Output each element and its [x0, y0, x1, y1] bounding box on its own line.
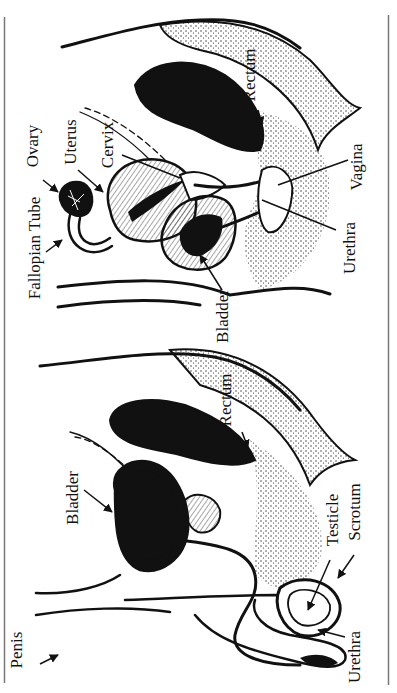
arrow-ovary: [43, 180, 58, 192]
label-ovary: Ovary: [23, 124, 42, 167]
label-fallopian-tube: Fallopian Tube: [25, 197, 44, 300]
female-front-contour: [58, 281, 330, 295]
female-ovary: [60, 182, 93, 216]
male-front-contour: [36, 575, 120, 593]
female-fallopian-tube: [79, 218, 110, 244]
label-male-rectum: Rectum: [216, 374, 235, 427]
label-scrotum: Scrotum: [345, 483, 364, 541]
label-testicle: Testicle: [323, 494, 342, 547]
arrow-fallopian-tube: [46, 240, 62, 252]
female-front-contour-2: [58, 301, 200, 307]
arrow-male-bladder: [84, 490, 112, 512]
male-prostate: [184, 495, 220, 533]
arrow-scrotum: [338, 555, 354, 578]
label-uterus-text: Uterus: [61, 119, 80, 164]
label-penis-text: Penis: [7, 632, 26, 669]
label-vagina-text: Vagina: [347, 143, 366, 191]
label-female-urethra: Urethra: [340, 222, 359, 274]
label-female-urethra-text: Urethra: [340, 222, 359, 274]
male-front-contour-2: [36, 608, 170, 615]
label-ovary-text: Ovary: [23, 124, 42, 167]
label-fallopian-tube-text: Fallopian Tube: [25, 197, 44, 300]
label-uterus: Uterus: [61, 119, 80, 164]
label-male-urethra: Urethra: [345, 631, 364, 683]
label-female-rectum: Rectum: [240, 49, 259, 102]
label-male-bladder-text: Bladder: [63, 471, 82, 525]
label-vagina: Vagina: [347, 143, 366, 191]
label-scrotum-text: Scrotum: [345, 483, 364, 541]
female-ureter-dashed: [85, 108, 165, 160]
label-male-urethra-text: Urethra: [345, 631, 364, 683]
label-female-rectum-text: Rectum: [240, 49, 259, 102]
label-female-bladder-text: Bladder: [213, 289, 232, 343]
male-bladder: [114, 461, 188, 571]
female-fallopian-tube-2: [69, 215, 112, 252]
label-female-bladder: Bladder: [213, 289, 232, 343]
label-cervix-text: Cervix: [98, 121, 117, 168]
label-penis: Penis: [7, 632, 26, 669]
label-male-rectum-text: Rectum: [216, 374, 235, 427]
label-cervix: Cervix: [98, 121, 117, 168]
male-penis-tip: [300, 655, 338, 667]
anatomy-diagram: Fallopian Tube Ovary Uterus Cervix Bladd…: [0, 0, 397, 693]
label-male-bladder: Bladder: [63, 471, 82, 525]
male-anatomy-panel: [36, 349, 355, 667]
arrow-penis: [40, 655, 58, 664]
label-testicle-text: Testicle: [323, 494, 342, 547]
